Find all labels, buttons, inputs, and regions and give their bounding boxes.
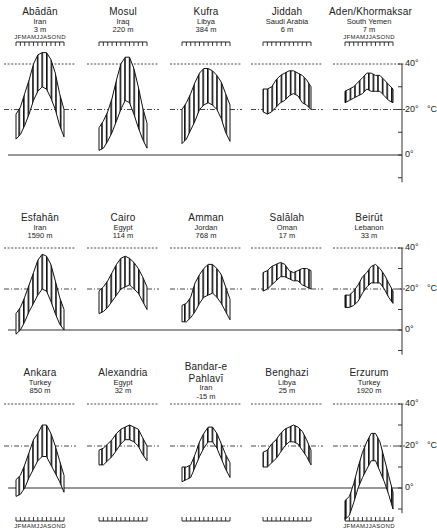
station-elevation: 220 m: [83, 26, 163, 35]
station-chart: [87, 42, 159, 150]
station-chart: [251, 42, 323, 114]
station-chart: [333, 248, 405, 307]
station-chart: [333, 404, 405, 521]
month-letters: JFMAMJJASOND: [339, 523, 399, 529]
station-label: SalālahOman17 m: [247, 212, 327, 241]
station-name: Esfahān: [0, 212, 80, 224]
station-elevation: 114 m: [83, 232, 163, 241]
station-elevation: 384 m: [166, 26, 246, 35]
y-tick-label: 40°: [405, 58, 419, 68]
temperature-band: [99, 256, 147, 313]
row-2: [8, 404, 402, 513]
temperature-band: [99, 425, 147, 465]
month-letters: JFMAMJJASOND: [10, 523, 70, 529]
temperature-band: [182, 69, 230, 144]
station-elevation: 768 m: [166, 232, 246, 241]
station-name: Amman: [166, 212, 246, 224]
station-name: Mosul: [83, 6, 163, 18]
y-tick-label: 20°: [405, 440, 419, 450]
station-label: AlexandriaEgypt32 m: [83, 367, 163, 396]
station-elevation: 25 m: [247, 387, 327, 396]
y-tick-label: °C: [427, 104, 437, 114]
station-elevation: 850 m: [0, 387, 80, 396]
y-tick-label: 40°: [405, 242, 419, 252]
station-name: Beirūt: [329, 212, 409, 224]
y-tick-label: 0°: [405, 149, 414, 159]
y-tick-label: °C: [427, 440, 437, 450]
station-label: Aden/KhormaksarSouth Yemen7 m: [329, 6, 409, 35]
temperature-band: [263, 262, 311, 291]
y-tick-label: 40°: [405, 398, 419, 408]
temperature-band: [99, 57, 147, 150]
temperature-band: [345, 73, 393, 103]
station-elevation: -15 m: [166, 393, 246, 402]
station-chart: [170, 404, 242, 521]
temperature-band: [16, 53, 64, 140]
temperature-band: [263, 425, 311, 467]
station-chart: [87, 404, 159, 521]
station-label: MosulIraq220 m: [83, 6, 163, 35]
station-name: Abādān: [0, 6, 80, 18]
station-label: EsfahānIran1590 m: [0, 212, 80, 241]
station-chart: [4, 248, 76, 334]
station-elevation: 17 m: [247, 232, 327, 241]
month-letters: JFMAMJJASOND: [339, 34, 399, 40]
y-tick-label: 20°: [405, 104, 419, 114]
station-chart: [251, 404, 323, 521]
y-tick-label: 0°: [405, 482, 414, 492]
station-label: AmmanJordan768 m: [166, 212, 246, 241]
y-tick-label: 0°: [405, 324, 414, 334]
station-chart: [87, 248, 159, 314]
station-name: Aden/Khormaksar: [329, 6, 409, 18]
station-chart: [4, 42, 76, 139]
station-chart: [251, 248, 323, 291]
station-name: Kufra: [166, 6, 246, 18]
temperature-band: [182, 427, 230, 482]
temperature-band: [16, 254, 64, 334]
station-label: AbādānIran3 m: [0, 6, 80, 35]
station-label: BeirūtLebanon33 m: [329, 212, 409, 241]
station-elevation: 1920 m: [329, 387, 409, 396]
station-name: Bandar-e: [166, 361, 246, 373]
station-label: Bandar-ePahlavīIran-15 m: [166, 361, 246, 401]
station-name: Jiddah: [247, 6, 327, 18]
y-tick-label: °C: [427, 283, 437, 293]
station-chart: [170, 248, 242, 322]
station-chart: [333, 42, 405, 110]
station-elevation: 1590 m: [0, 232, 80, 241]
y-tick-label: 20°: [405, 283, 419, 293]
station-label: AnkaraTurkey850 m: [0, 367, 80, 396]
station-elevation: 33 m: [329, 232, 409, 241]
temperature-band: [263, 71, 311, 114]
station-name: Benghazi: [247, 367, 327, 379]
station-name: Erzurum: [329, 367, 409, 379]
station-chart: [4, 404, 76, 521]
station-elevation: 32 m: [83, 387, 163, 396]
temperature-band: [345, 264, 393, 307]
station-label: BenghaziLibya25 m: [247, 367, 327, 396]
temperature-band: [182, 264, 230, 321]
station-name: Alexandria: [83, 367, 163, 379]
month-letters: JFMAMJJASOND: [10, 34, 70, 40]
temperature-band: [16, 425, 64, 496]
row-1: [8, 248, 402, 355]
station-name: Ankara: [0, 367, 80, 379]
station-label: ErzurumTurkey1920 m: [329, 367, 409, 396]
station-label: JiddahSaudi Arabia6 m: [247, 6, 327, 35]
station-chart: [170, 42, 242, 144]
station-label: KufraLibya384 m: [166, 6, 246, 35]
station-elevation: 6 m: [247, 26, 327, 35]
station-name: Cairo: [83, 212, 163, 224]
station-name: Salālah: [247, 212, 327, 224]
station-label: CairoEgypt114 m: [83, 212, 163, 241]
